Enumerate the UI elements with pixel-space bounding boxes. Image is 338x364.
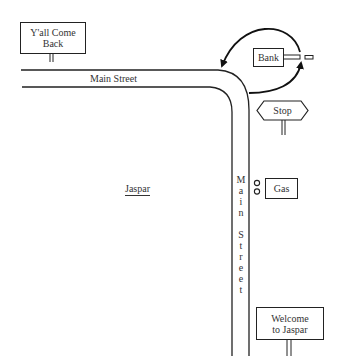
stop-sign-label: Stop <box>257 105 308 116</box>
welcome-sign-line2: to Jaspar <box>271 324 309 335</box>
gas-label: Gas <box>274 183 290 194</box>
bank-building: Bank <box>253 48 284 67</box>
main-street-inner-edge <box>22 87 232 356</box>
main-street-outer-edge <box>21 70 249 356</box>
town-label: Jaspar <box>125 183 150 196</box>
yall-sign-line1: Y'all Come <box>30 27 75 38</box>
bank-driveway-end <box>305 56 313 60</box>
gas-station: Gas <box>265 178 298 199</box>
bank-driveway <box>283 55 300 59</box>
yall-come-back-sign: Y'all Come Back <box>20 22 86 54</box>
welcome-sign: Welcome to Jaspar <box>256 307 324 340</box>
yall-sign-line2: Back <box>30 38 75 49</box>
main-street-horizontal-label: Main Street <box>90 73 137 84</box>
bank-label: Bank <box>258 52 279 63</box>
gas-pump-icon <box>254 189 259 194</box>
welcome-sign-line1: Welcome <box>271 313 309 324</box>
gas-pump-icon <box>254 180 259 185</box>
main-street-vertical-label: M a i n S t r e e t <box>235 174 247 295</box>
loop-arrow-lower <box>249 63 301 93</box>
